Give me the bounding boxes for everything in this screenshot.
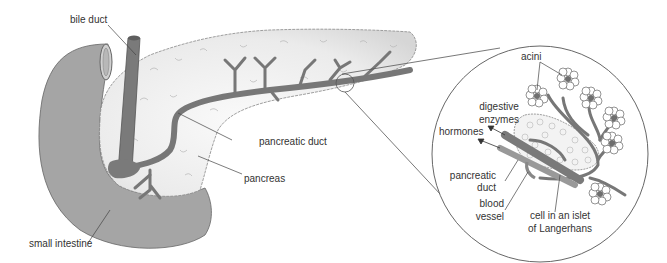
label-digestive-enzymes-line1: digestive (460, 101, 538, 113)
label-acini: acini (521, 51, 542, 63)
label-pancreas: pancreas (244, 173, 285, 185)
label-pancreatic-duct-inset-line1: pancreatic (440, 170, 496, 182)
label-pancreatic-duct: pancreatic duct (259, 136, 327, 148)
pancreas-diagram: bile duct pancreatic duct pancreas small… (0, 0, 667, 263)
label-small-intestine: small intestine (29, 238, 92, 250)
label-hormones: hormones (439, 126, 483, 138)
label-islet-line1: cell in an islet (515, 210, 605, 222)
label-blood-vessel-line2: vessel (460, 211, 504, 223)
label-bile-duct: bile duct (70, 14, 107, 26)
pancreas-shape (100, 29, 417, 196)
label-blood-vessel-line1: blood (460, 198, 504, 210)
label-pancreatic-duct-inset-line2: duct (440, 182, 496, 194)
label-digestive-enzymes-line2: enzymes (460, 114, 538, 126)
label-islet-line2: of Langerhans (515, 223, 605, 235)
